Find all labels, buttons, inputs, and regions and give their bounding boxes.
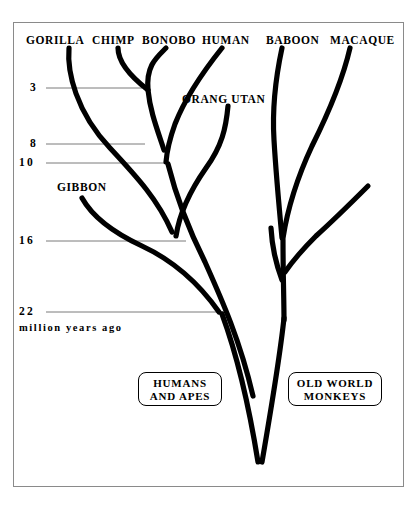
- taxon-label-baboon: BABOON: [266, 35, 319, 47]
- taxon-label-orang-utan: ORANG UTAN: [182, 94, 265, 106]
- taxon-label-human: HUMAN: [202, 35, 250, 47]
- phylogenetic-tree-figure: 38101622 million years ago GORILLACHIMPB…: [0, 0, 418, 505]
- clade-box-old-world-monkeys: OLD WORLD MONKEYS: [288, 372, 382, 406]
- taxon-label-gorilla: GORILLA: [26, 35, 85, 47]
- taxon-label-macaque: MACAQUE: [330, 35, 395, 47]
- axis-caption: million years ago: [19, 322, 123, 334]
- clade-box-humans-and-apes: HUMANS AND APES: [138, 372, 222, 406]
- axis-tick-label-8: 8: [30, 138, 38, 150]
- figure-border: [13, 22, 404, 487]
- taxon-label-gibbon: GIBBON: [57, 182, 107, 194]
- axis-tick-label-16: 16: [19, 235, 35, 247]
- taxon-label-bonobo: BONOBO: [142, 35, 196, 47]
- taxon-label-chimp: CHIMP: [92, 35, 135, 47]
- axis-tick-label-22: 22: [19, 306, 35, 318]
- axis-tick-label-3: 3: [30, 82, 38, 94]
- axis-tick-label-10: 10: [19, 157, 35, 169]
